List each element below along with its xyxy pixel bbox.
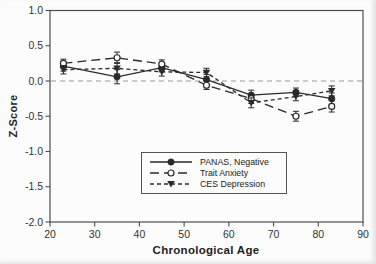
y-tick-label: -1.0 — [25, 145, 43, 157]
x-tick-label: 30 — [89, 228, 101, 240]
open-circle-marker — [114, 55, 120, 61]
legend-item-ces-depression: CES Depression — [149, 179, 282, 189]
y-tick-label: -2.0 — [25, 216, 43, 228]
legend-label: PANAS, Negative — [200, 157, 269, 167]
open-circle-marker — [159, 61, 165, 67]
series-ces-depression — [60, 63, 336, 108]
x-axis-ticks: 2030405060708090 — [44, 222, 369, 240]
open-circle-marker — [204, 82, 210, 88]
x-tick-label: 90 — [357, 228, 369, 240]
open-circle-marker — [168, 170, 174, 176]
series-panas-negative — [60, 61, 334, 104]
legend-item-trait-anxiety: Trait Anxiety — [149, 168, 282, 178]
figure: 20304050607080901.00.50.0-0.5-1.0-1.5-2.… — [0, 0, 376, 264]
x-tick-label: 60 — [223, 228, 235, 240]
y-tick-label: -0.5 — [25, 110, 43, 122]
series-line — [63, 66, 331, 98]
legend-line-marker-sample-icon — [149, 157, 193, 167]
y-axis-title: Z-Score — [7, 94, 19, 137]
series-trait-anxiety — [60, 52, 334, 121]
y-axis-ticks: 1.00.50.0-0.5-1.0-1.5-2.0 — [25, 4, 50, 228]
open-circle-marker — [293, 113, 299, 119]
legend-item-panas-negative: PANAS, Negative — [149, 157, 282, 167]
filled-circle-marker — [168, 159, 174, 165]
x-axis-title: Chronological Age — [153, 244, 260, 256]
series-line — [63, 58, 331, 117]
open-circle-marker — [329, 103, 335, 109]
y-tick-label: 0.5 — [28, 39, 43, 51]
y-tick-label: 0.0 — [28, 75, 43, 87]
legend-line-marker-sample-icon — [149, 179, 193, 189]
chart-canvas: 20304050607080901.00.50.0-0.5-1.0-1.5-2.… — [0, 0, 376, 264]
x-tick-label: 40 — [134, 228, 146, 240]
y-tick-label: -1.5 — [25, 180, 43, 192]
x-tick-label: 80 — [312, 228, 324, 240]
legend-label: Trait Anxiety — [200, 168, 248, 178]
legend-label: CES Depression — [200, 179, 265, 189]
filled-circle-marker — [114, 74, 120, 80]
legend: PANAS, Negative Trait Anxiety CES Depres… — [141, 152, 287, 194]
legend-line-marker-sample-icon — [149, 168, 193, 178]
x-tick-label: 20 — [44, 228, 56, 240]
x-tick-label: 50 — [178, 228, 190, 240]
y-tick-label: 1.0 — [28, 4, 43, 16]
x-tick-label: 70 — [268, 228, 280, 240]
